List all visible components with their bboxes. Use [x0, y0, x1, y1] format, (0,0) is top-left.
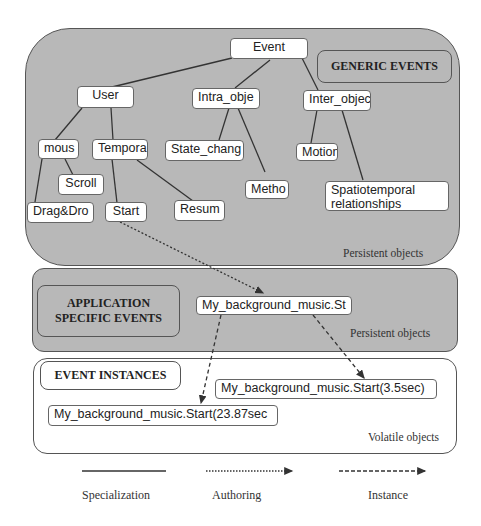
application-persistent-note: Persistent objects — [350, 327, 430, 339]
node-inter-object[interactable]: Inter_objec — [303, 90, 371, 111]
legend-authoring: Authoring — [212, 488, 261, 503]
event-instances-title: EVENT INSTANCES — [40, 361, 181, 390]
node-instance-23-87[interactable]: My_background_music.Start(23.87sec — [48, 405, 278, 426]
spatio-line1: Spatiotemporal — [331, 183, 443, 197]
generic-events-title-text: GENERIC EVENTS — [331, 59, 438, 74]
generic-events-title: GENERIC EVENTS — [317, 50, 452, 83]
node-instance-3-5[interactable]: My_background_music.Start(3.5sec) — [215, 379, 437, 399]
node-intra-object[interactable]: Intra_obje — [192, 88, 260, 109]
node-start[interactable]: Start — [105, 202, 147, 222]
node-event[interactable]: Event — [230, 38, 308, 59]
node-metho[interactable]: Metho — [245, 180, 289, 199]
node-user[interactable]: User — [77, 86, 134, 108]
volatile-note: Volatile objects — [368, 431, 439, 443]
node-tempora[interactable]: Tempora — [92, 139, 148, 160]
node-spatiotemporal[interactable]: Spatiotemporal relationships — [325, 181, 449, 211]
spatio-line2: relationships — [331, 197, 443, 211]
generic-persistent-note: Persistent objects — [343, 247, 423, 259]
node-state-chang[interactable]: State_chang — [165, 140, 244, 161]
node-resum[interactable]: Resum — [174, 200, 225, 221]
node-scroll[interactable]: Scroll — [58, 174, 104, 195]
node-mous[interactable]: mous — [38, 139, 79, 159]
node-motion[interactable]: Motion — [296, 143, 338, 161]
legend-specialization: Specialization — [82, 488, 150, 503]
application-title-line2: SPECIFIC EVENTS — [55, 311, 162, 326]
legend-instance: Instance — [368, 488, 408, 503]
node-bg-music[interactable]: My_background_music.St — [196, 296, 352, 315]
node-dragdro[interactable]: Drag&Dro — [27, 202, 94, 223]
application-title-line1: APPLICATION — [67, 296, 150, 311]
application-events-title: APPLICATION SPECIFIC EVENTS — [37, 285, 180, 337]
event-instances-title-text: EVENT INSTANCES — [55, 368, 167, 383]
